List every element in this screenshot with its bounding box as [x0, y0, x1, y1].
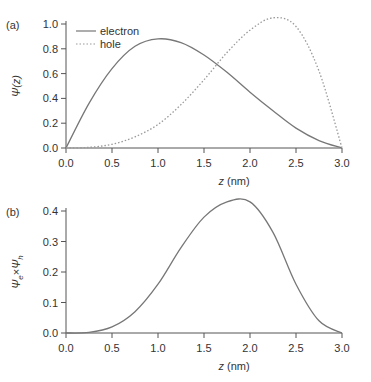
x-tick-label: 1.5	[196, 342, 211, 354]
legend: electronhole	[76, 25, 139, 50]
x-tick-label: 0.0	[58, 342, 73, 354]
y-tick-label: 0.4	[43, 205, 58, 217]
x-tick-label: 2.5	[288, 342, 303, 354]
x-tick-label: 1.0	[150, 342, 165, 354]
y-axis-label: Ψe×Ψh	[10, 255, 25, 289]
x-tick-label: 2.0	[242, 157, 257, 169]
y-axis-label: Ψ(z)	[10, 75, 22, 97]
y-tick-label: 0.0	[43, 327, 58, 339]
series-electron-line	[66, 39, 342, 148]
x-tick-label: 1.0	[150, 157, 165, 169]
x-tick-label: 2.0	[242, 342, 257, 354]
chart-panel-b: (b)0.00.10.20.30.40.00.51.01.52.02.53.0z…	[6, 199, 350, 372]
y-tick-label: 0.6	[43, 68, 58, 80]
panel-label: (b)	[6, 206, 19, 218]
legend-item-hole: hole	[100, 38, 121, 50]
y-tick-label: 0.2	[43, 266, 58, 278]
y-tick-label: 0.0	[43, 142, 58, 154]
x-axis-label: z (nm)	[217, 360, 249, 372]
y-tick-label: 1.0	[43, 18, 58, 30]
legend-item-electron: electron	[100, 25, 139, 37]
chart-panel-a: (a)0.00.20.40.60.81.00.00.51.01.52.02.53…	[6, 18, 350, 187]
figure: (a)0.00.20.40.60.81.00.00.51.01.52.02.53…	[0, 0, 371, 382]
x-tick-label: 0.5	[104, 342, 119, 354]
x-tick-label: 2.5	[288, 157, 303, 169]
x-axis-label: z (nm)	[217, 175, 249, 187]
x-tick-label: 0.0	[58, 157, 73, 169]
y-tick-label: 0.3	[43, 236, 58, 248]
y-tick-label: 0.2	[43, 117, 58, 129]
x-tick-label: 0.5	[104, 157, 119, 169]
y-tick-label: 0.8	[43, 43, 58, 55]
x-tick-label: 3.0	[334, 342, 349, 354]
panel-label: (a)	[6, 19, 19, 31]
series-eh-line	[66, 199, 342, 333]
x-tick-label: 3.0	[334, 157, 349, 169]
y-tick-label: 0.4	[43, 92, 58, 104]
x-tick-label: 1.5	[196, 157, 211, 169]
y-tick-label: 0.1	[43, 297, 58, 309]
